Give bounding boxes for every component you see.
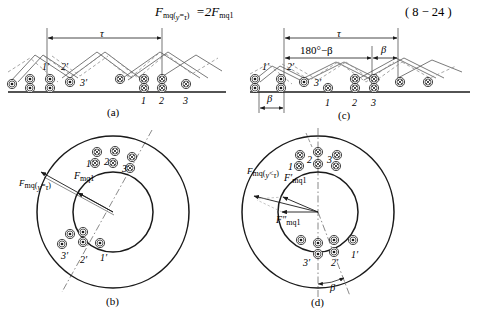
panel-b-label-1: 1 [86, 158, 91, 169]
panel-c-label-3-primed: 3′ [313, 77, 322, 88]
panel-a-conductors-primed [7, 74, 74, 92]
panel-a-label: (a) [107, 106, 119, 118]
panel-d-beta-label: β [330, 282, 335, 293]
panel-b-conductors-dots [57, 227, 104, 248]
panel-a-label-2: 2 [159, 95, 164, 106]
panel-a: 1′ 2′ 3′ 1 2 3 [7, 28, 226, 106]
panel-b: 1 2 3 3′ 2′ 1′ [37, 130, 189, 292]
panel-a-tau-label: τ [100, 28, 104, 39]
panel-c-tau-label: τ [337, 28, 341, 39]
panel-c-label-3: 3 [370, 97, 376, 108]
panel-c-dimension-tau [284, 28, 398, 86]
panel-b-label-2: 2 [104, 156, 109, 167]
figure-canvas: 1′ 2′ 3′ 1 2 3 [0, 0, 481, 313]
panel-a-label-1-primed: 1′ [42, 61, 50, 72]
panel-d-label-3-primed: 3′ [302, 257, 311, 268]
panel-c-shift-beta-label: β [267, 93, 272, 104]
panel-b-label-3: 3 [121, 163, 127, 174]
panel-b-vector-fundamental-label: Fmq1 [74, 170, 94, 183]
panel-b-label: (b) [106, 295, 119, 307]
panel-c-label: (c) [338, 109, 350, 121]
panel-a-conductors-unprimed [115, 74, 190, 92]
panel-a-label-1: 1 [141, 95, 146, 106]
panel-c-pitch-remainder-label: β [381, 44, 386, 55]
panel-c-conductors-primed [250, 74, 308, 92]
panel-d-label-1: 1 [288, 161, 293, 172]
panel-d-axis-tick [306, 133, 312, 147]
panel-c-label-1-primed: 1′ [262, 61, 270, 72]
panel-c: 1′ 2′ 3′ 1 2 3 [250, 28, 470, 113]
panel-d-label-2: 2 [307, 154, 312, 165]
panel-d-vector-resultant-label: Fmq(y<τ) [247, 166, 279, 180]
panel-b-label-2-primed: 2′ [80, 254, 88, 265]
panel-c-pitch-main-label: 180°−β [300, 44, 333, 56]
panel-d-vector-component-2 [257, 200, 318, 212]
panel-a-label-2-primed: 2′ [61, 61, 69, 72]
panel-d-label-3: 3 [326, 154, 332, 165]
panel-a-label-3-primed: 3′ [79, 77, 88, 88]
panel-c-label-1: 1 [325, 97, 330, 108]
panel-d-label: (d) [311, 296, 324, 308]
panel-b-vector-resultant-label: Fmq(y=τ) [19, 178, 51, 192]
panel-b-conductors-crosses [90, 146, 136, 172]
panel-d-conductors-dots [296, 235, 357, 258]
panel-d-vector-component-1-label: F′mq1 [284, 172, 307, 185]
panel-b-label-3-primed: 3′ [60, 250, 69, 261]
panel-c-conductors-unprimed [323, 74, 432, 92]
panel-d-label-2-primed: 2′ [331, 257, 339, 268]
panel-d-label-1-primed: 1′ [351, 249, 359, 260]
panel-d-vector-component-2-label: F″mq1 [276, 214, 301, 227]
panel-d: 1 2 3 3′ 2′ 1′ [242, 128, 394, 298]
panel-b-label-1-primed: 1′ [100, 252, 108, 263]
panel-a-label-3: 3 [182, 95, 188, 106]
panel-c-label-2: 2 [352, 97, 357, 108]
panel-c-label-2-primed: 2′ [287, 61, 295, 72]
